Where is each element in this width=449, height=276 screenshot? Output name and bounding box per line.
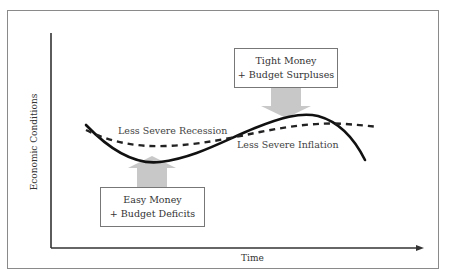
recession-label: Less Severe Recession	[118, 125, 227, 136]
tight-money-line2: + Budget Surpluses	[235, 68, 337, 82]
diagram-canvas	[0, 0, 449, 276]
down-arrow-icon	[261, 87, 311, 118]
x-axis-label: Time	[241, 253, 264, 263]
easy-money-line1: Easy Money	[101, 193, 204, 207]
inflation-label: Less Severe Inflation	[237, 139, 339, 150]
easy-money-box: Easy Money + Budget Deficits	[100, 187, 205, 227]
easy-money-line2: + Budget Deficits	[101, 207, 204, 221]
x-axis-arrowhead-icon	[416, 245, 424, 251]
tight-money-line1: Tight Money	[235, 54, 337, 68]
tight-money-box: Tight Money + Budget Surpluses	[234, 48, 338, 88]
y-axis-label: Economic Conditions	[29, 94, 39, 191]
